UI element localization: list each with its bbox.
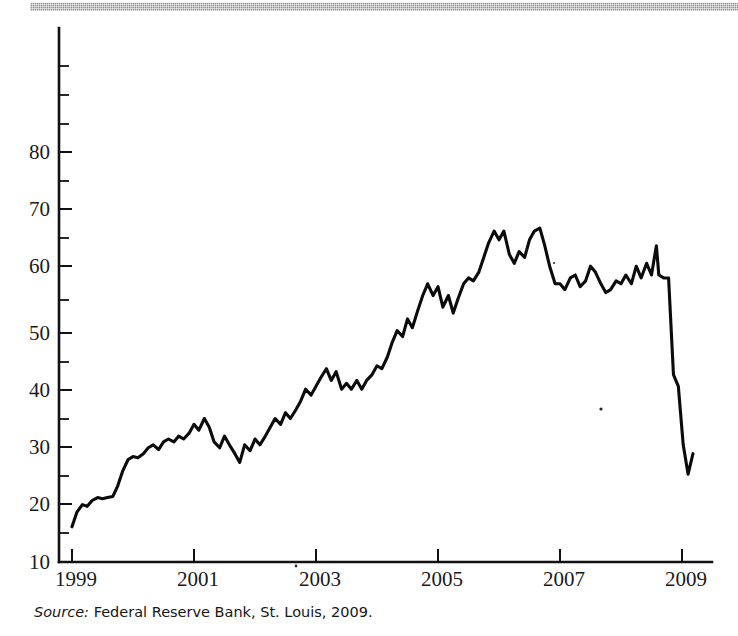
x-tick-label: 2005: [421, 567, 463, 591]
chart-axes: [59, 28, 712, 562]
y-axis-tick-labels: 10 20 30 40 50 60 70 80: [29, 140, 50, 574]
y-axis-minor-ticks: [59, 66, 69, 533]
x-axis-tick-labels: 1999 2001 2003 2005 2007 2009: [55, 567, 707, 591]
x-axis-major-ticks: [72, 549, 682, 562]
y-tick-label: 40: [29, 378, 50, 402]
x-tick-label: 2009: [665, 567, 707, 591]
data-series-line: [72, 228, 693, 527]
line-chart-plot: 10 20 30 40 50 60 70 80 1999 2001 2003 2…: [0, 0, 738, 600]
y-tick-label: 10: [29, 550, 50, 574]
stray-speck: [295, 565, 298, 568]
source-caption: Source: Federal Reserve Bank, St. Louis,…: [34, 604, 714, 620]
stray-speck: [553, 262, 555, 264]
chart-figure: 10 20 30 40 50 60 70 80 1999 2001 2003 2…: [0, 0, 738, 600]
x-tick-label: 2001: [177, 567, 219, 591]
y-tick-label: 20: [29, 492, 50, 516]
y-axis-major-ticks: [59, 152, 72, 562]
source-text: Federal Reserve Bank, St. Louis, 2009.: [94, 604, 373, 620]
x-tick-label: 2007: [543, 567, 585, 591]
x-tick-label: 1999: [55, 567, 97, 591]
y-tick-label: 50: [29, 321, 50, 345]
y-tick-label: 60: [29, 254, 50, 278]
y-tick-label: 70: [29, 197, 50, 221]
source-label: Source:: [34, 604, 89, 620]
y-tick-label: 30: [29, 435, 50, 459]
x-tick-label: 2003: [299, 567, 341, 591]
y-tick-label: 80: [29, 140, 50, 164]
stray-speck: [599, 407, 602, 410]
